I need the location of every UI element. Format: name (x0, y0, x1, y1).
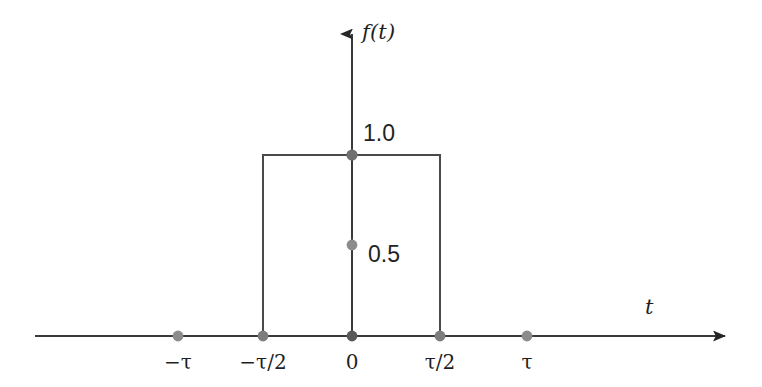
pulse-figure: f(t) t 1.0 0.5 −τ −τ/2 0 τ/2 τ (0, 0, 762, 387)
tick-label-minus-tau: −τ (164, 352, 192, 372)
amplitude-label-one: 1.0 (363, 122, 395, 145)
marker-minus-tau (173, 331, 184, 342)
tick-label-zero: 0 (346, 352, 359, 372)
y-axis-label: f(t) (362, 22, 395, 43)
amplitude-label-half: 0.5 (368, 243, 400, 266)
tick-label-minus-tau-half: −τ/2 (239, 352, 286, 372)
plot-canvas (0, 0, 762, 387)
marker-tau (522, 331, 533, 342)
marker-origin (347, 331, 358, 342)
marker-tau-half (435, 331, 446, 342)
marker-half-amplitude (347, 240, 358, 251)
x-axis-label: t (645, 297, 654, 318)
tick-label-tau-half: τ/2 (425, 352, 456, 372)
marker-minus-tau-half (258, 331, 269, 342)
marker-unit-amplitude (346, 149, 357, 160)
tick-label-tau: τ (521, 352, 532, 372)
